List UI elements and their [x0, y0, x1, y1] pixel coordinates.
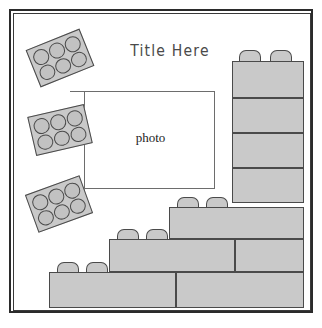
- photo-placeholder-label: photo: [85, 130, 216, 146]
- poster-canvas: Title Here photo: [0, 0, 322, 328]
- artwork-area: Title Here photo: [14, 14, 310, 310]
- step-brick-middle-left: [109, 239, 235, 272]
- column-brick-2: [232, 98, 304, 133]
- column-brick-4: [232, 168, 304, 203]
- column-brick-3: [232, 133, 304, 168]
- brick-stud-top: [69, 125, 88, 144]
- bottom-brick-left: [49, 272, 176, 308]
- top-view-brick-3: [25, 175, 93, 232]
- brick-stud-top: [32, 116, 51, 135]
- photo-leader-line-top: [70, 91, 85, 92]
- brick-stud-top: [49, 113, 68, 132]
- step-brick-middle-right: [235, 239, 304, 272]
- photo-placeholder[interactable]: photo: [84, 91, 215, 189]
- bottom-brick-right: [176, 272, 304, 308]
- brick-stud-top: [52, 129, 71, 148]
- page-title: Title Here: [110, 41, 230, 59]
- brick-stud: [239, 50, 261, 61]
- brick-stud-top: [36, 133, 55, 152]
- brick-stud: [270, 50, 292, 61]
- brick-stud-top: [65, 109, 84, 128]
- top-view-brick-1: [26, 29, 95, 88]
- step-brick-upper: [169, 207, 304, 239]
- column-brick-1: [232, 61, 304, 98]
- top-view-brick-2: [27, 104, 93, 156]
